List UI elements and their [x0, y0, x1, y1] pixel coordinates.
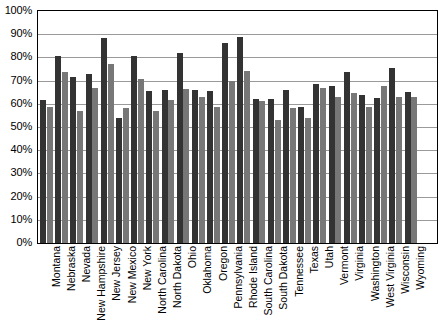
y-axis-tick-label: 0%: [17, 237, 33, 248]
x-axis-label-slot: Utah: [312, 244, 327, 330]
bar: [123, 108, 129, 243]
x-axis-label-slot: Texas: [297, 244, 312, 330]
bar-group: [40, 11, 54, 243]
x-axis-label-slot: Virginia: [343, 244, 358, 330]
y-axis-tick-label: 20%: [11, 190, 32, 201]
plot-area: [37, 10, 438, 244]
y-axis-tick-label: 60%: [11, 97, 32, 108]
bar: [320, 88, 326, 243]
bar: [162, 90, 168, 243]
x-axis-label-slot: South Dakota: [267, 244, 282, 330]
bar: [335, 97, 341, 243]
y-axis-tick-label: 80%: [11, 51, 32, 62]
x-axis-label-slot: Montana: [39, 244, 54, 330]
y-axis-tick-label: 40%: [11, 144, 32, 155]
x-axis-tick-label: Wyoming: [415, 246, 426, 290]
bar: [138, 79, 144, 243]
bar: [396, 97, 402, 243]
bar: [411, 97, 417, 243]
bar-group: [101, 11, 115, 243]
bar: [275, 120, 281, 243]
x-axis-label-slot: Oregon: [206, 244, 221, 330]
bar: [146, 91, 152, 243]
x-axis-label-slot: New Jersey: [100, 244, 115, 330]
bar-group: [359, 11, 373, 243]
bar: [351, 93, 357, 243]
x-axis-label-slot: Pennsylvania: [221, 244, 236, 330]
bar-group: [222, 11, 236, 243]
x-axis-label-slot: West Virginia: [373, 244, 388, 330]
bar: [405, 92, 411, 243]
bar: [214, 107, 220, 243]
x-axis-label-slot: Nevada: [69, 244, 84, 330]
bar: [389, 68, 395, 243]
bar: [116, 118, 122, 243]
x-axis-label-slot: North Dakota: [161, 244, 176, 330]
bar: [259, 101, 265, 243]
bar: [253, 99, 259, 243]
bar: [86, 74, 92, 243]
x-axis-label-slot: Washington: [358, 244, 373, 330]
bar: [244, 71, 250, 243]
y-axis-tick-label: 30%: [11, 167, 32, 178]
bar-group: [298, 11, 312, 243]
x-axis-label-slot: New York: [130, 244, 145, 330]
bar: [77, 111, 83, 243]
bar-group: [55, 11, 69, 243]
y-axis: 100%90%80%70%60%50%40%30%20%10%0%: [0, 0, 36, 252]
bar-group: [116, 11, 130, 243]
bar: [183, 89, 189, 243]
bar-group: [389, 11, 403, 243]
bar: [92, 88, 98, 243]
bar: [290, 108, 296, 243]
y-axis-tick-label: 100%: [5, 5, 32, 16]
bar: [192, 90, 198, 243]
bar: [62, 72, 68, 243]
bar: [168, 100, 174, 243]
bar: [108, 64, 114, 243]
bar: [344, 72, 350, 243]
bar: [313, 84, 319, 243]
bar: [199, 97, 205, 243]
bar: [207, 91, 213, 243]
bar-group: [146, 11, 160, 243]
x-axis-label-slot: New Mexico: [115, 244, 130, 330]
x-axis-label-slot: Vermont: [328, 244, 343, 330]
y-axis-tick-label: 70%: [11, 74, 32, 85]
bar-group: [329, 11, 343, 243]
bar-group: [405, 11, 419, 243]
bar: [55, 56, 61, 243]
x-axis-label-slot: Tennessee: [282, 244, 297, 330]
bar-group: [344, 11, 358, 243]
x-axis-label-slot: Wyoming: [404, 244, 419, 330]
y-axis-tick-label: 50%: [11, 121, 32, 132]
y-axis-tick-label: 10%: [11, 213, 32, 224]
bar: [366, 107, 372, 243]
bar: [222, 43, 228, 243]
bar-group: [253, 11, 267, 243]
bar-group: [70, 11, 84, 243]
bar: [101, 38, 107, 243]
bar-group: [374, 11, 388, 243]
x-axis-label-slot: Ohio: [176, 244, 191, 330]
bar: [329, 86, 335, 243]
bar-group: [268, 11, 282, 243]
bar: [47, 107, 53, 243]
bar-group: [313, 11, 327, 243]
bar: [268, 99, 274, 243]
x-axis-label-slot: Wisconsin: [388, 244, 403, 330]
bar: [229, 81, 235, 243]
bar: [283, 90, 289, 243]
bar: [131, 56, 137, 243]
x-axis-label-slot: New Hampshire: [85, 244, 100, 330]
bar: [298, 107, 304, 243]
bar: [305, 118, 311, 243]
bar-group: [162, 11, 176, 243]
x-axis-label-slot: North Carolina: [145, 244, 160, 330]
x-axis-label-slot: Nebraska: [54, 244, 69, 330]
bar: [381, 86, 387, 243]
bar-group: [86, 11, 100, 243]
bar: [153, 111, 159, 243]
x-axis-label-slot: Oklahoma: [191, 244, 206, 330]
bar: [70, 77, 76, 243]
